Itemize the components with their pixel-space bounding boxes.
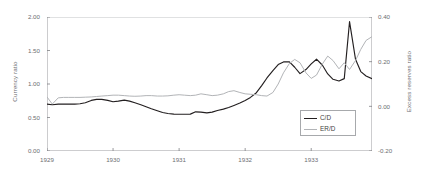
series-line-er-d — [47, 37, 372, 104]
y-tick-right-0.20: 0.20 — [378, 58, 408, 65]
data-series-group — [47, 22, 372, 115]
x-tick-1933: 1933 — [296, 156, 326, 163]
y-tick-left-0.50: 0.50 — [0, 114, 40, 121]
legend: C/D ER/D — [300, 110, 356, 136]
x-tick-1932: 1932 — [230, 156, 260, 163]
legend-item: C/D — [304, 113, 355, 124]
legend-label-cd: C/D — [320, 115, 331, 121]
chart-figure: Currency ratio Excess reserves ratio C/D… — [0, 0, 422, 185]
x-tick-1929: 1929 — [32, 156, 62, 163]
legend-item: ER/D — [304, 124, 355, 135]
y-tick-right-0.00: 0.00 — [378, 103, 408, 110]
legend-label-erd: ER/D — [320, 126, 335, 132]
y-tick-left-1.00: 1.00 — [0, 80, 40, 87]
series-line-c-d — [47, 22, 372, 115]
legend-swatch-cd — [304, 118, 317, 119]
y-tick-left-1.50: 1.50 — [0, 47, 40, 54]
y-axis-right-title: Excess reserves ratio — [405, 40, 412, 124]
x-tick-1930: 1930 — [98, 156, 128, 163]
legend-swatch-erd — [304, 129, 317, 130]
x-tick-1931: 1931 — [164, 156, 194, 163]
y-tick-left-2.00: 2.00 — [0, 13, 40, 20]
y-tick-right--0.20: -0.20 — [378, 147, 408, 154]
y-tick-left-0.00: 0.00 — [0, 147, 40, 154]
y-tick-right-0.40: 0.40 — [378, 13, 408, 20]
